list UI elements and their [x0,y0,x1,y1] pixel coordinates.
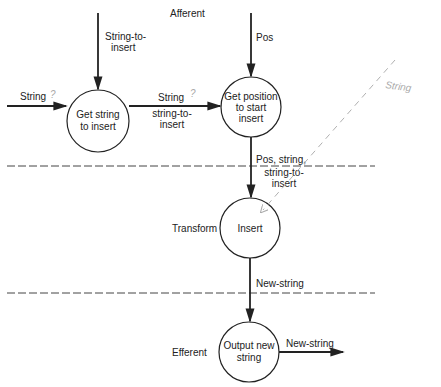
flow-new-string-mid-label: New-string [256,278,304,289]
structure-chart: Afferent Transform Efferent Get string t… [0,0,441,387]
annotation-question-2: ? [190,88,196,99]
process-get-position-line3: insert [239,113,264,124]
process-output-line1: Output new [223,340,275,351]
process-get-string-line1: Get string [76,109,119,120]
region-label-efferent: Efferent [172,347,207,358]
annotation-pencil-arrow [263,60,395,210]
process-insert-label: Insert [237,223,262,234]
flow-pos-string-line2: string-to- [264,167,303,178]
process-output-line2: string [237,352,261,363]
flow-new-string-out-label: New-string [286,338,334,349]
annotation-handwritten-string: String [385,79,413,94]
flow-string-mid-line2: string-to- [152,108,191,119]
region-label-transform: Transform [172,223,217,234]
region-label-afferent: Afferent [170,8,205,19]
flow-string-in-label: String [20,91,46,102]
flow-pos-string-line3: insert [272,178,297,189]
process-get-position-line1: Get position [224,91,277,102]
annotation-question-1: ? [50,89,56,100]
process-get-string-line2: to insert [80,121,116,132]
flow-pos-in-label: Pos [256,32,273,43]
flow-string-mid-line1: String [158,92,184,103]
flow-string-to-insert-in-line2: insert [111,42,136,53]
process-get-position-line2: to start [236,102,267,113]
flow-pos-string-line1: Pos, string, [256,154,306,165]
flow-string-to-insert-in-line1: String-to- [105,31,146,42]
flow-string-mid-line3: insert [160,119,185,130]
